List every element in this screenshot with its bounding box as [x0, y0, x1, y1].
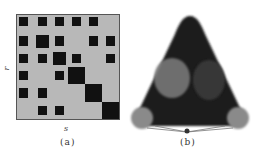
matrix-block — [55, 71, 64, 81]
network-graph — [125, 10, 255, 135]
matrix-block — [106, 36, 115, 46]
matrix-block — [19, 88, 28, 98]
node-bottom-right — [227, 107, 249, 129]
matrix-block — [38, 17, 47, 27]
matrix-block — [38, 88, 47, 98]
matrix-block — [55, 17, 64, 27]
matrix-block — [89, 36, 98, 46]
caption-a: (a) — [60, 137, 75, 147]
matrix-block — [19, 71, 28, 81]
caption-b: (b) — [180, 137, 196, 147]
matrix-block — [102, 102, 119, 119]
matrix-block — [85, 84, 102, 101]
matrix-block — [53, 52, 66, 65]
y-axis-label: r — [2, 67, 11, 71]
block-matrix — [16, 14, 120, 120]
matrix-block — [68, 67, 85, 84]
matrix-block — [36, 35, 49, 48]
matrix-block — [19, 36, 28, 46]
matrix-block — [106, 54, 115, 64]
matrix-block — [72, 54, 81, 64]
matrix-block — [55, 106, 64, 116]
matrix-block — [19, 54, 28, 64]
matrix-block — [89, 17, 98, 27]
edge-fan — [147, 126, 233, 132]
node-bottom-center — [185, 129, 190, 134]
matrix-block — [38, 106, 47, 116]
cluster-upper-left — [154, 58, 190, 98]
matrix-block — [19, 17, 28, 27]
x-axis-label: s — [64, 124, 68, 133]
cluster-upper-right — [193, 60, 225, 100]
matrix-block — [55, 36, 64, 46]
node-bottom-left — [131, 107, 153, 129]
triangle-network-body — [138, 16, 242, 126]
matrix-block — [72, 17, 81, 27]
matrix-block — [38, 54, 47, 64]
